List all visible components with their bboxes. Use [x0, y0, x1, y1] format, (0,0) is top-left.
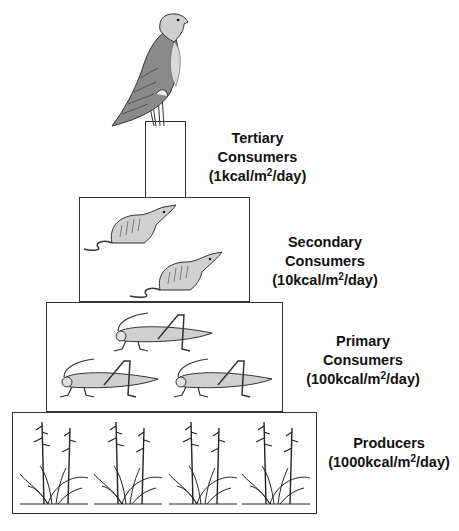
grasshopper-icon — [172, 355, 277, 403]
grass-plant-icon — [240, 418, 312, 506]
producers-name: Producers — [320, 434, 458, 453]
secondary-label: Secondary Consumers (10kcal/m2/day) — [260, 233, 390, 290]
shrew-icon — [84, 203, 174, 253]
shrew-icon — [132, 252, 222, 298]
grasshopper-icon — [58, 355, 163, 403]
secondary-energy: (10kcal/m2/day) — [260, 271, 390, 290]
grass-plant-icon — [167, 418, 239, 506]
secondary-name-line1: Secondary — [260, 233, 390, 252]
tertiary-energy: (1kcal/m2/day) — [190, 167, 325, 186]
tertiary-name-line1: Tertiary — [190, 129, 325, 148]
secondary-name-line2: Consumers — [260, 252, 390, 271]
tertiary-label: Tertiary Consumers (1kcal/m2/day) — [190, 129, 325, 186]
producers-energy: (1000kcal/m2/day) — [320, 453, 458, 472]
producers-label: Producers (1000kcal/m2/day) — [320, 434, 458, 472]
grasshopper-icon — [112, 309, 217, 357]
primary-energy: (100kcal/m2/day) — [288, 370, 438, 389]
primary-name-line2: Consumers — [288, 351, 438, 370]
primary-name-line1: Primary — [288, 332, 438, 351]
tertiary-level-box — [145, 121, 186, 198]
grass-plant-icon — [92, 418, 164, 506]
hawk-icon — [100, 8, 200, 126]
primary-label: Primary Consumers (100kcal/m2/day) — [288, 332, 438, 389]
tertiary-name-line2: Consumers — [190, 148, 325, 167]
grass-plant-icon — [18, 418, 90, 506]
